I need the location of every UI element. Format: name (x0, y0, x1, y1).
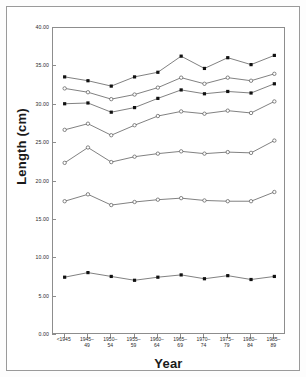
x-axis-title: Year (52, 356, 285, 371)
y-axis-tick-mark (52, 334, 56, 335)
figure-page: Length (cm) 0.005.0010.0015.0020.0025.00… (0, 0, 306, 377)
series-series-6 (63, 190, 276, 206)
y-axis-tick-label: 15.00 (36, 216, 49, 222)
data-point-marker-filled-square (203, 277, 206, 280)
data-point-marker-open-circle (179, 76, 182, 79)
series-line (65, 141, 275, 163)
y-axis-tick-label: 5.00 (39, 293, 50, 299)
data-point-marker-open-circle (86, 146, 89, 149)
data-point-marker-filled-square (110, 111, 113, 114)
plot-top-rule (52, 27, 285, 28)
series-series-3 (63, 82, 276, 114)
data-point-marker-open-circle (179, 110, 182, 113)
data-point-marker-filled-square (86, 101, 89, 104)
x-axis-tick-label-line2: 89 (256, 342, 290, 348)
data-point-marker-filled-square (156, 276, 159, 279)
x-axis-tick-label: 1985–89 (256, 336, 290, 348)
data-point-marker-open-circle (273, 139, 276, 142)
data-point-marker-filled-square (86, 79, 89, 82)
plot-area (52, 27, 285, 334)
data-point-marker-open-circle (133, 124, 136, 127)
data-point-marker-filled-square (249, 278, 252, 281)
data-point-marker-open-circle (86, 91, 89, 94)
data-point-marker-open-circle (226, 109, 229, 112)
data-point-marker-open-circle (133, 93, 136, 96)
data-point-marker-filled-square (63, 102, 66, 105)
data-point-marker-filled-square (226, 274, 229, 277)
data-point-marker-open-circle (156, 152, 159, 155)
data-point-marker-filled-square (273, 275, 276, 278)
data-point-marker-open-circle (63, 200, 66, 203)
data-point-marker-filled-square (63, 276, 66, 279)
data-point-marker-filled-square (133, 75, 136, 78)
data-point-marker-filled-square (226, 56, 229, 59)
data-point-marker-filled-square (133, 279, 136, 282)
data-point-marker-filled-square (63, 75, 66, 78)
data-point-marker-open-circle (203, 82, 206, 85)
data-point-marker-open-circle (156, 198, 159, 201)
data-point-marker-open-circle (249, 200, 252, 203)
data-point-marker-open-circle (203, 199, 206, 202)
series-line (65, 84, 275, 112)
data-point-marker-open-circle (203, 152, 206, 155)
y-axis-tick-label: 40.00 (36, 24, 49, 30)
data-point-marker-open-circle (249, 151, 252, 154)
data-point-marker-open-circle (110, 160, 113, 163)
series-line (65, 74, 275, 99)
y-axis-tick-label: 10.00 (36, 254, 49, 260)
line-chart-svg (53, 27, 286, 334)
data-point-marker-open-circle (86, 193, 89, 196)
x-axis-tick-labels: <19451945–491950–541955–591960–641965–69… (52, 336, 292, 356)
data-point-marker-open-circle (273, 72, 276, 75)
series-line (65, 55, 275, 86)
data-point-marker-filled-square (180, 88, 183, 91)
data-point-marker-filled-square (226, 90, 229, 93)
series-series-5 (63, 139, 276, 165)
data-point-marker-open-circle (203, 112, 206, 115)
y-axis-tick-label: 20.00 (36, 178, 49, 184)
data-point-marker-filled-square (249, 91, 252, 94)
data-point-marker-open-circle (110, 203, 113, 206)
data-point-marker-open-circle (110, 97, 113, 100)
y-axis-tick-labels: 0.005.0010.0015.0020.0025.0030.0035.0040… (18, 0, 49, 377)
data-point-marker-open-circle (273, 100, 276, 103)
series-series-2 (63, 72, 276, 101)
data-point-marker-open-circle (273, 190, 276, 193)
data-point-marker-open-circle (249, 111, 252, 114)
data-point-marker-filled-square (273, 54, 276, 57)
series-line (65, 273, 275, 281)
series-series-4 (63, 100, 276, 137)
data-point-marker-filled-square (86, 271, 89, 274)
series-line (65, 192, 275, 205)
data-point-marker-filled-square (180, 55, 183, 58)
data-point-marker-open-circle (179, 150, 182, 153)
data-point-marker-open-circle (86, 122, 89, 125)
data-point-marker-filled-square (249, 63, 252, 66)
data-point-marker-open-circle (156, 86, 159, 89)
data-point-marker-filled-square (156, 71, 159, 74)
data-point-marker-filled-square (110, 85, 113, 88)
data-point-marker-open-circle (110, 134, 113, 137)
data-point-marker-filled-square (203, 92, 206, 95)
data-point-marker-open-circle (226, 76, 229, 79)
data-point-marker-filled-square (110, 275, 113, 278)
y-axis-tick-label: 25.00 (36, 139, 49, 145)
data-point-marker-open-circle (226, 150, 229, 153)
data-point-marker-open-circle (63, 161, 66, 164)
series-series-7 (63, 271, 276, 282)
data-point-marker-filled-square (156, 97, 159, 100)
data-point-marker-filled-square (273, 82, 276, 85)
data-point-marker-open-circle (156, 114, 159, 117)
data-point-marker-filled-square (180, 273, 183, 276)
data-point-marker-open-circle (226, 200, 229, 203)
data-point-marker-open-circle (63, 87, 66, 90)
data-point-marker-open-circle (63, 128, 66, 131)
data-point-marker-open-circle (249, 79, 252, 82)
data-point-marker-filled-square (203, 67, 206, 70)
y-axis-tick-label: 30.00 (36, 101, 49, 107)
y-axis-tick-label: 35.00 (36, 62, 49, 68)
data-point-marker-open-circle (133, 200, 136, 203)
plot-right-rule (284, 27, 285, 334)
data-point-marker-open-circle (133, 155, 136, 158)
data-point-marker-filled-square (133, 106, 136, 109)
